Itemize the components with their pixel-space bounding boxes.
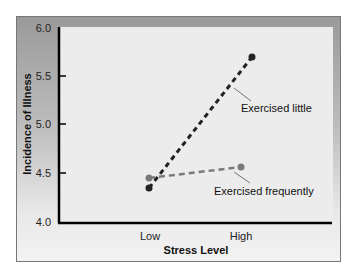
- x-tick-label: High: [230, 230, 253, 242]
- y-tick-label: 6.0: [36, 22, 51, 34]
- x-axis-title: Stress Level: [164, 244, 229, 256]
- series-label-exercised-little: Exercised little: [241, 102, 312, 114]
- series-line-exercised-little: [149, 57, 252, 188]
- x-tick-label: Low: [140, 230, 160, 242]
- data-point: [238, 164, 245, 171]
- y-tick-label: 5.5: [36, 70, 51, 82]
- y-tick-label: 5.0: [36, 118, 51, 130]
- data-point: [146, 185, 153, 192]
- data-point: [249, 54, 256, 61]
- y-tick-label: 4.0: [36, 216, 51, 228]
- y-tick-label: 4.5: [36, 167, 51, 179]
- series-label-exercised-frequently: Exercised frequently: [214, 185, 314, 197]
- y-axis-title: Incidence of Illness: [21, 73, 33, 174]
- line-chart: 6.0 5.5 5.0 4.5 4.0 Low High Stress Leve…: [0, 0, 362, 273]
- data-point: [146, 175, 153, 182]
